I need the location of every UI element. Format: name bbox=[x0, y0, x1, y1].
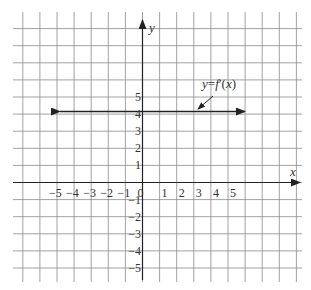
x-tick-label: 2 bbox=[179, 186, 185, 200]
x-tick-label: −3 bbox=[83, 186, 96, 200]
x-tick-label: 3 bbox=[196, 186, 202, 200]
y-tick-label: 1 bbox=[135, 158, 141, 172]
y-tick-label: −5 bbox=[128, 261, 141, 275]
x-tick-label: 1 bbox=[162, 186, 168, 200]
coordinate-plane: x y y=f′(x) −5−4−3−2−1012345 54321−1−2−3… bbox=[0, 0, 311, 290]
x-tick-label: 4 bbox=[213, 186, 219, 200]
x-tick-label: −2 bbox=[100, 186, 113, 200]
x-tick-label: −5 bbox=[49, 186, 62, 200]
y-tick-label: −4 bbox=[128, 244, 141, 258]
y-tick-label: −1 bbox=[128, 193, 141, 207]
grid-lines bbox=[13, 12, 302, 282]
graph-figure: x y y=f′(x) −5−4−3−2−1012345 54321−1−2−3… bbox=[0, 0, 311, 290]
y-tick-label: 5 bbox=[135, 90, 141, 104]
y-axis-label: y bbox=[147, 20, 155, 35]
y-tick-label: −2 bbox=[128, 210, 141, 224]
y-tick-label: 2 bbox=[135, 141, 141, 155]
x-axis-label: x bbox=[289, 164, 296, 179]
curve-label: y=f′(x) bbox=[200, 76, 236, 91]
y-tick-label: 3 bbox=[135, 124, 141, 138]
y-tick-label: −3 bbox=[128, 227, 141, 241]
y-tick-label: 4 bbox=[135, 107, 141, 121]
x-tick-label: −4 bbox=[66, 186, 79, 200]
x-tick-labels: −5−4−3−2−1012345 bbox=[49, 186, 236, 200]
x-tick-label: 5 bbox=[230, 186, 236, 200]
